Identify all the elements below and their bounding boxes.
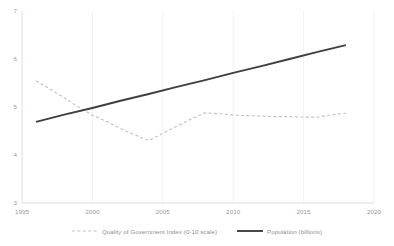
x-tick-label: 2015: [289, 208, 319, 215]
legend-item-1[interactable]: Quality of Government Index (0-10 scale): [72, 228, 217, 235]
series-layer: [36, 45, 346, 141]
y-tick-label: 7: [3, 7, 17, 14]
y-tick-label: 3: [3, 199, 17, 206]
y-tick-label: 4: [3, 151, 17, 158]
chart-legend: Quality of Government Index (0-10 scale)…: [0, 224, 394, 238]
legend-label: Quality of Government Index (0-10 scale): [102, 228, 217, 235]
y-tick-label: 6: [3, 55, 17, 62]
legend-swatch-dashed: [72, 228, 98, 234]
x-tick-label: 2000: [77, 208, 107, 215]
x-tick-label: 2020: [359, 208, 389, 215]
legend-label: Population (billions): [267, 228, 322, 235]
legend-swatch-solid: [237, 228, 263, 234]
line-chart: 76543 199520002005201020152020 Quality o…: [0, 0, 394, 246]
x-tick-label: 2005: [148, 208, 178, 215]
x-tick-label: 1995: [7, 208, 37, 215]
plot-area: [0, 0, 394, 246]
legend-item-2[interactable]: Population (billions): [237, 228, 322, 235]
y-tick-label: 5: [3, 103, 17, 110]
axis-lines: [22, 11, 374, 203]
x-tick-label: 2010: [218, 208, 248, 215]
gridlines: [92, 11, 374, 203]
series-line-2: [36, 45, 346, 122]
